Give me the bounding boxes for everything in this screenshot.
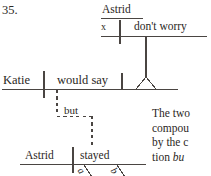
explanatory-note: The two compou by the c tion bu bbox=[152, 106, 211, 164]
label-embedded-predicate: don't worry bbox=[134, 21, 187, 33]
sentence-diagram-figure: 35. Astrid x don't worry Katie would say… bbox=[0, 0, 211, 176]
label-main2-subject: Astrid bbox=[25, 150, 54, 162]
note-line-2: compou bbox=[152, 121, 211, 136]
label-conjunction: but bbox=[64, 105, 78, 116]
label-embedded-placeholder: x bbox=[101, 22, 106, 32]
label-embedded-subject: Astrid bbox=[102, 4, 131, 16]
note-line-3: by the c bbox=[152, 135, 211, 150]
label-main1-predicate: would say bbox=[57, 74, 108, 87]
triangle-right-leg bbox=[146, 77, 156, 89]
note-line-1: The two bbox=[152, 106, 211, 121]
note-line-4-text: tion bbox=[152, 151, 173, 163]
modifier-slant-2 bbox=[117, 165, 133, 176]
exercise-number: 35. bbox=[2, 4, 18, 17]
modifier-slant-1 bbox=[84, 165, 100, 176]
label-main1-subject: Katie bbox=[3, 74, 30, 87]
label-main2-predicate: stayed bbox=[80, 150, 109, 162]
note-line-4-italic: bu bbox=[173, 151, 185, 163]
note-line-4: tion bu bbox=[152, 150, 211, 165]
triangle-left-leg bbox=[136, 77, 146, 89]
